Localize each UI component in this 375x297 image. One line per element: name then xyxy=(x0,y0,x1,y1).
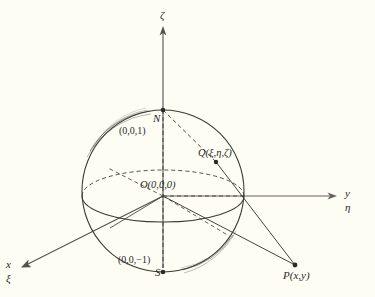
xi-axis-label: ξ xyxy=(6,273,11,284)
p-point-dot xyxy=(293,263,298,268)
radius-dashed-lower-right xyxy=(163,196,229,236)
ray-origin-to-p xyxy=(163,196,295,265)
p-point-label: P(x,y) xyxy=(283,270,310,281)
radius-lower-left xyxy=(110,196,163,228)
north-pole-coords: (0,0,1) xyxy=(119,126,146,136)
south-pole-coords: (0,0,−1) xyxy=(118,255,150,265)
north-pole-dot xyxy=(161,108,166,113)
south-pole-dot xyxy=(161,270,166,275)
zeta-axis-label: ζ xyxy=(160,10,164,21)
south-pole-label: S xyxy=(155,267,161,278)
origin-label: O(0,0,0) xyxy=(140,180,176,191)
stereographic-projection-figure: ζ y η x ξ N (0,0,1) (0,0,−1) S O(0,0,0) … xyxy=(0,0,375,297)
x-axis-label: x xyxy=(6,259,11,270)
north-pole-label: N xyxy=(153,113,160,124)
y-eta-axis-line xyxy=(163,193,337,200)
eta-axis-label: η xyxy=(345,202,350,213)
q-point-dot xyxy=(214,160,218,164)
q-point-label: Q(ξ,η,ζ) xyxy=(198,148,232,159)
projection-ray-q-to-p xyxy=(216,162,295,265)
y-axis-label: y xyxy=(345,188,350,199)
figure-canvas xyxy=(0,0,375,297)
